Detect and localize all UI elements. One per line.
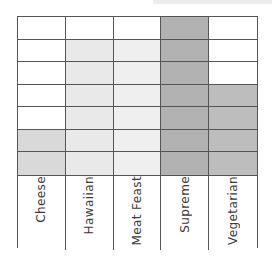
filled-cell-meat-feast [114,40,162,63]
empty-cell-vegetarian [209,17,257,40]
filled-cell-cheese [18,152,66,175]
filled-cell-hawaiian [66,62,114,85]
filled-cell-supreme [161,40,209,63]
filled-cell-cheese [18,130,66,153]
filled-cell-meat-feast [114,62,162,85]
filled-cell-hawaiian [66,130,114,153]
filled-cell-vegetarian [209,130,257,153]
category-label-cell-hawaiian: Hawaiian [66,176,114,250]
category-label: Hawaiian [82,176,96,238]
filled-cell-supreme [161,85,209,108]
filled-cell-meat-feast [114,107,162,130]
filled-cell-meat-feast [114,130,162,153]
empty-cell-meat-feast [114,17,162,40]
category-axis: CheeseHawaiianMeat FeastSupremeVegetaria… [17,176,258,248]
empty-cell-hawaiian [66,17,114,40]
empty-cell-cheese [18,85,66,108]
block-graph-chart: CheeseHawaiianMeat FeastSupremeVegetaria… [0,0,275,266]
chart-grid [17,16,258,176]
filled-cell-hawaiian [66,107,114,130]
filled-cell-supreme [161,152,209,175]
filled-cell-meat-feast [114,152,162,175]
filled-cell-vegetarian [209,152,257,175]
category-label: Supreme [178,176,192,237]
empty-cell-cheese [18,107,66,130]
filled-cell-supreme [161,62,209,85]
filled-cell-supreme [161,130,209,153]
scan-artifact-strip [153,0,272,4]
empty-cell-cheese [18,17,66,40]
empty-cell-vegetarian [209,40,257,63]
filled-cell-meat-feast [114,85,162,108]
empty-cell-vegetarian [209,62,257,85]
filled-cell-hawaiian [66,85,114,108]
filled-cell-vegetarian [209,85,257,108]
category-label: Cheese [34,176,48,227]
category-label: Vegetarian [226,176,240,249]
filled-cell-hawaiian [66,40,114,63]
filled-cell-supreme [161,107,209,130]
category-label-cell-cheese: Cheese [18,176,66,250]
filled-cell-vegetarian [209,107,257,130]
category-label: Meat Feast [130,176,144,250]
filled-cell-hawaiian [66,152,114,175]
category-label-cell-vegetarian: Vegetarian [209,176,257,250]
category-label-cell-supreme: Supreme [161,176,209,250]
category-label-cell-meat-feast: Meat Feast [114,176,162,250]
empty-cell-cheese [18,40,66,63]
filled-cell-supreme [161,17,209,40]
empty-cell-cheese [18,62,66,85]
